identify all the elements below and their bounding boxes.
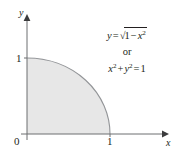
radicand-x-exponent: 2 — [142, 29, 146, 37]
equation-rhs-one: 1 — [141, 63, 146, 74]
radicand-minus-sign: − — [130, 30, 138, 41]
figure-canvas — [0, 0, 180, 164]
equation-line-circle: x2+y2=1 — [78, 61, 176, 77]
equation-equals-sign-1: = — [112, 30, 120, 41]
radicand-one: 1 — [124, 30, 129, 41]
y-axis-arrowhead — [24, 14, 31, 21]
y-axis-label: y — [19, 8, 23, 18]
x-axis-label: x — [166, 138, 170, 148]
equation-annotation: y=√1−x2 or x2+y2=1 — [78, 27, 176, 77]
x-axis-tick-label-1: 1 — [107, 136, 113, 147]
origin-label: 0 — [14, 136, 20, 147]
y-axis-tick-label-1: 1 — [16, 53, 22, 64]
equation-equals-sign-2: = — [133, 63, 141, 74]
radical-expression: √1−x2 — [120, 27, 147, 44]
equation-line-radical: y=√1−x2 — [78, 27, 176, 44]
equation-line-or: or — [78, 44, 176, 60]
figure-quarter-unit-circle: y x 1 0 1 y=√1−x2 or x2+y2=1 — [0, 0, 180, 164]
radicand: 1−x2 — [124, 27, 146, 44]
